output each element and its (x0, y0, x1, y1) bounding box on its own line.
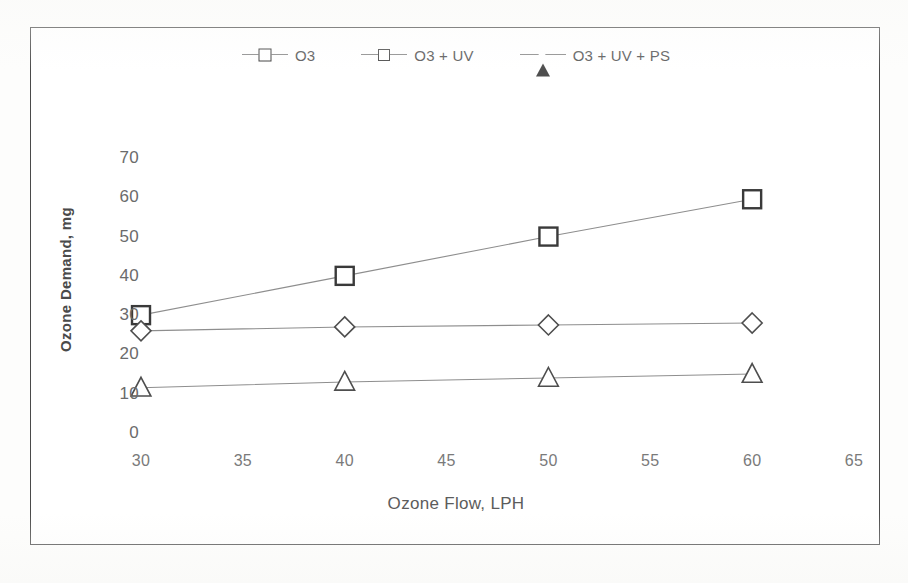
x-tick-label: 35 (218, 452, 268, 470)
y-tick-label: 10 (99, 384, 139, 404)
chart-frame: O3 O3 + UV O3 + UV + PS (30, 27, 880, 545)
y-tick-label: 60 (99, 187, 139, 207)
y-tick-label: 20 (99, 344, 139, 364)
x-tick-label: 30 (116, 452, 166, 470)
y-tick-label: 70 (99, 148, 139, 168)
y-tick-label: 50 (99, 227, 139, 247)
data-point-square (336, 267, 354, 285)
x-tick-label: 60 (727, 452, 777, 470)
series-line (141, 323, 752, 331)
series-o3-uv-ps (131, 364, 762, 396)
y-tick-label: 30 (99, 305, 139, 325)
x-tick-label: 50 (523, 452, 573, 470)
data-point-square (743, 190, 761, 208)
data-point-triangle (742, 364, 762, 383)
data-point-square (539, 228, 557, 246)
x-axis-title: Ozone Flow, LPH (31, 494, 881, 514)
data-point-diamond (335, 317, 355, 337)
data-point-diamond (538, 315, 558, 335)
y-tick-label: 0 (99, 423, 139, 443)
data-point-triangle (539, 368, 559, 387)
x-tick-label: 40 (320, 452, 370, 470)
x-axis-ticks: 3035404550556065 (31, 452, 881, 478)
series-o3 (132, 190, 761, 324)
x-tick-label: 65 (829, 452, 879, 470)
series-line (141, 199, 752, 315)
series-line (141, 374, 752, 388)
y-axis-title: Ozone Demand, mg (57, 180, 74, 380)
x-tick-label: 45 (422, 452, 472, 470)
page-bottom-edge (30, 569, 880, 571)
y-tick-label: 40 (99, 266, 139, 286)
data-point-triangle (335, 371, 355, 390)
series-o3-uv (131, 313, 762, 341)
x-tick-label: 55 (625, 452, 675, 470)
page-background: O3 O3 + UV O3 + UV + PS (0, 0, 908, 583)
data-point-diamond (742, 313, 762, 333)
